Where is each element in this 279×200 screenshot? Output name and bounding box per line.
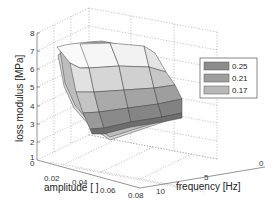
chart-canvas: 8 7 6 5 4 3 2 1 0 0.02 0.04 0.06 0.08 0 …: [0, 0, 279, 200]
svg-text:0.06: 0.06: [100, 186, 116, 195]
legend-swatch: [204, 74, 229, 82]
svg-text:4: 4: [30, 102, 35, 111]
svg-text:2: 2: [30, 138, 35, 147]
legend-swatch: [204, 62, 229, 70]
svg-text:0.21: 0.21: [232, 74, 248, 83]
z-tick-labels: 8 7 6 5 4 3 2 1 0: [30, 29, 35, 168]
legend-item-0.21: 0.21: [204, 74, 248, 83]
svg-text:5: 5: [30, 83, 35, 92]
svg-text:7: 7: [30, 47, 35, 56]
x-axis-label: amplitude [ ]: [44, 182, 99, 193]
svg-text:10: 10: [156, 187, 165, 196]
surface-chart: 8 7 6 5 4 3 2 1 0 0.02 0.04 0.06 0.08 0 …: [0, 0, 279, 200]
legend-swatch: [204, 86, 229, 94]
svg-text:0: 0: [259, 159, 264, 168]
svg-text:0.08: 0.08: [128, 191, 144, 200]
svg-text:6: 6: [30, 65, 35, 74]
svg-text:3: 3: [30, 120, 35, 129]
z-axis-label: loss modulus [MPa]: [14, 55, 25, 142]
svg-text:0.25: 0.25: [232, 62, 248, 71]
legend-item-0.17: 0.17: [204, 86, 248, 95]
legend: 0.25 0.21 0.17: [200, 58, 257, 98]
svg-text:8: 8: [30, 29, 35, 38]
surface-0.25: [57, 43, 182, 135]
y-axis-label: frequency [Hz]: [176, 181, 241, 192]
svg-text:0.17: 0.17: [232, 86, 248, 95]
svg-text:0: 0: [30, 159, 35, 168]
legend-item-0.25: 0.25: [204, 62, 248, 71]
